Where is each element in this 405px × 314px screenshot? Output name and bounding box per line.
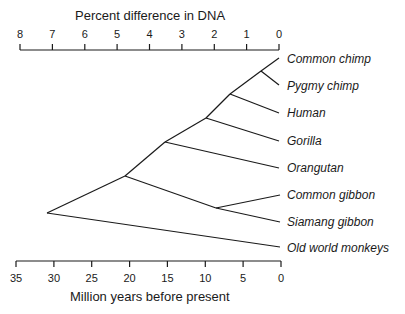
taxon-gorilla: Gorilla [287, 134, 322, 148]
top-axis-title: Percent difference in DNA [75, 8, 225, 23]
taxon-common-gibbon: Common gibbon [287, 188, 375, 202]
taxon-siamang-gibbon: Siamang gibbon [287, 215, 374, 229]
top-tick-label: 6 [82, 28, 88, 40]
bottom-axis [16, 261, 281, 267]
taxon-orangutan: Orangutan [287, 161, 344, 175]
top-axis [20, 44, 279, 50]
bottom-tick-label: 25 [86, 272, 98, 284]
bottom-axis-title: Million years before present [70, 289, 230, 304]
tree-branches [47, 58, 280, 247]
top-tick-label: 0 [276, 28, 282, 40]
top-tick-label: 2 [211, 28, 217, 40]
taxon-human: Human [287, 106, 326, 120]
taxon-common-chimp: Common chimp [287, 52, 371, 66]
tree-canvas [0, 0, 405, 314]
bottom-tick-label: 0 [278, 272, 284, 284]
top-tick-label: 1 [244, 28, 250, 40]
top-tick-label: 5 [114, 28, 120, 40]
top-tick-label: 7 [49, 28, 55, 40]
bottom-tick-label: 5 [240, 272, 246, 284]
taxon-old-world-monkeys: Old world monkeys [287, 241, 389, 255]
taxon-pygmy-chimp: Pygmy chimp [287, 79, 359, 93]
bottom-tick-label: 10 [199, 272, 211, 284]
top-tick-label: 4 [146, 28, 152, 40]
bottom-tick-label: 20 [123, 272, 135, 284]
bottom-tick-label: 35 [10, 272, 22, 284]
top-tick-label: 3 [179, 28, 185, 40]
bottom-tick-label: 30 [48, 272, 60, 284]
bottom-tick-label: 15 [161, 272, 173, 284]
top-tick-label: 8 [17, 28, 23, 40]
